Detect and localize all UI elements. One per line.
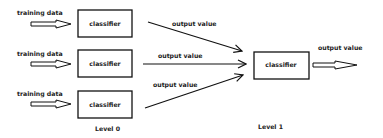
classifier-label: classifier: [89, 20, 121, 27]
hollow-arrow-icon: [31, 60, 71, 68]
output-value-label: output value: [172, 20, 217, 28]
classifier-label: classifier: [89, 60, 121, 67]
training-data-label: training data: [17, 50, 63, 58]
classifier-label: classifier: [89, 101, 121, 108]
output-value-label: output value: [153, 81, 198, 89]
output-arrows: output value output value output value: [143, 20, 246, 108]
classifier-label: classifier: [265, 61, 297, 68]
hollow-arrow-icon: [31, 20, 71, 28]
output-value-label: output value: [158, 52, 203, 60]
arrow-icon: [145, 75, 243, 108]
hollow-arrow-icon: [313, 61, 357, 69]
level0-label: Level 0: [95, 125, 121, 132]
stacking-diagram: training data classifier training data c…: [0, 0, 383, 138]
final-output-value-label: output value: [318, 44, 363, 52]
training-data-label: training data: [17, 9, 63, 17]
level0-row-3: training data classifier: [17, 90, 132, 118]
level0-row-2: training data classifier: [17, 50, 132, 77]
level0-row-1: training data classifier: [17, 9, 132, 37]
level1-block: classifier output value Level 1: [254, 44, 363, 130]
hollow-arrow-icon: [31, 100, 71, 108]
level1-label: Level 1: [258, 123, 283, 130]
training-data-label: training data: [17, 90, 63, 98]
